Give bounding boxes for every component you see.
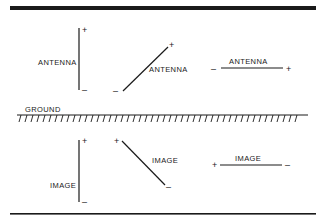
vertical-antenna-plus: + — [82, 25, 87, 35]
diagonal-antenna-minus: – — [113, 86, 118, 96]
top-border-bar — [10, 6, 316, 10]
diagonal-image: + – IMAGE — [114, 136, 178, 192]
horizontal-antenna-plus: + — [286, 64, 291, 74]
horizontal-antenna: – + ANTENNA — [211, 57, 291, 74]
diagonal-antenna-plus: + — [169, 40, 174, 50]
horizontal-antenna-label: ANTENNA — [229, 57, 268, 66]
vertical-image-plus: + — [82, 136, 87, 146]
horizontal-image-minus: – — [285, 160, 290, 170]
ground-hatching — [19, 115, 297, 122]
horizontal-image-plus: + — [212, 160, 217, 170]
diagonal-image-label: IMAGE — [152, 156, 178, 165]
ground-plane: GROUND — [17, 105, 308, 122]
bottom-border-line — [10, 213, 316, 215]
antenna-image-diagram: + – ANTENNA + – ANTENNA – + ANTENNA GROU… — [0, 0, 326, 220]
vertical-image: + – IMAGE — [50, 136, 87, 207]
vertical-antenna-label: ANTENNA — [38, 58, 77, 67]
vertical-antenna-minus: – — [82, 85, 87, 95]
horizontal-image: + – IMAGE — [212, 154, 290, 170]
diagonal-antenna-label: ANTENNA — [149, 65, 188, 74]
horizontal-antenna-minus: – — [211, 64, 216, 74]
vertical-image-label: IMAGE — [50, 181, 76, 190]
diagonal-image-plus: + — [114, 136, 119, 146]
ground-label: GROUND — [25, 105, 61, 114]
horizontal-image-label: IMAGE — [235, 154, 261, 163]
diagonal-antenna: + – ANTENNA — [113, 40, 188, 96]
diagonal-image-minus: – — [166, 182, 171, 192]
vertical-antenna: + – ANTENNA — [38, 25, 87, 95]
vertical-image-minus: – — [82, 197, 87, 207]
